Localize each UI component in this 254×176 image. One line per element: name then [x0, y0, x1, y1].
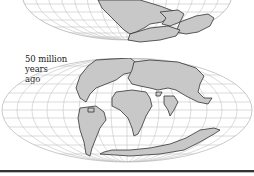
island — [156, 92, 162, 96]
africa — [112, 90, 152, 136]
bottom-map-continents — [76, 58, 220, 156]
separator-rule-shadow — [0, 172, 254, 173]
india — [164, 96, 178, 116]
south-america — [78, 106, 106, 156]
island — [88, 108, 94, 112]
bottom-world-map — [0, 58, 254, 166]
top-world-map — [0, 0, 254, 46]
